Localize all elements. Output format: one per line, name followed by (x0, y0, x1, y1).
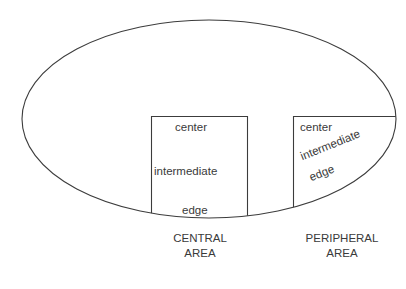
peripheral-area-caption: PERIPHERAL AREA (286, 231, 398, 261)
central-label-edge: edge (182, 205, 208, 217)
central-label-center: center (175, 122, 207, 134)
diagram-canvas: center intermediate edge center intermed… (0, 0, 406, 289)
peripheral-label-center: center (300, 122, 332, 134)
central-area-caption-line2: AREA (150, 246, 250, 261)
peripheral-area-caption-line1: PERIPHERAL (286, 231, 398, 246)
central-label-intermediate: intermediate (154, 166, 217, 178)
central-area-caption-line1: CENTRAL (150, 231, 250, 246)
visual-field-ellipse (22, 20, 396, 218)
peripheral-area-caption-line2: AREA (286, 246, 398, 261)
central-area-caption: CENTRAL AREA (150, 231, 250, 261)
